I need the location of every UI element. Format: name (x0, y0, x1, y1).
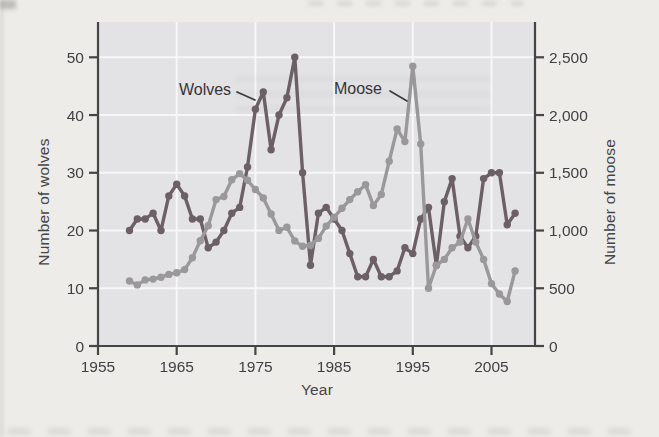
left-axis-tick-label: 10 (67, 280, 85, 297)
x-axis-tick-label: 1985 (317, 358, 351, 375)
wolves-point (267, 146, 274, 153)
wolves-point (220, 227, 227, 234)
wolves-point (244, 163, 251, 170)
wolves-point (346, 250, 353, 257)
moose-point (378, 191, 385, 198)
moose-point (173, 269, 180, 276)
wolves-point (409, 250, 416, 257)
wolves-point (480, 175, 487, 182)
moose-point (393, 125, 400, 132)
moose-point (126, 277, 133, 284)
wolves-point (252, 106, 259, 113)
moose-point (181, 266, 188, 273)
wolves-point (236, 204, 243, 211)
wolves-point (126, 227, 133, 234)
moose-point (149, 275, 156, 282)
wolves-point (464, 244, 471, 251)
moose-point (315, 235, 322, 242)
wolves-point (157, 227, 164, 234)
textbook-figure-page: 0102030405005001,0001,5002,0002,50019551… (0, 0, 659, 437)
wolves-point (181, 192, 188, 199)
moose-point (488, 280, 495, 287)
wolves-point (142, 215, 149, 222)
moose-point (275, 227, 282, 234)
moose-point (252, 186, 259, 193)
moose-point (401, 138, 408, 145)
wolves-point (401, 244, 408, 251)
moose-point (212, 196, 219, 203)
moose-point (504, 298, 511, 305)
x-axis-title: Year (301, 381, 333, 399)
moose-point (228, 176, 235, 183)
x-axis-tick-label: 1975 (238, 358, 272, 375)
wolves-point (315, 210, 322, 217)
moose-point (330, 214, 337, 221)
moose-point (260, 194, 267, 201)
wolves-point (307, 262, 314, 269)
moose-point (157, 274, 164, 281)
moose-point (433, 262, 440, 269)
wolves-point (488, 169, 495, 176)
moose-point (189, 254, 196, 261)
wolf-moose-population-chart: 0102030405005001,0001,5002,0002,50019551… (0, 0, 659, 437)
left-axis-tick-label: 50 (67, 49, 85, 66)
x-axis-tick-label: 1995 (396, 358, 430, 375)
moose-point (283, 224, 290, 231)
moose-point (417, 140, 424, 147)
moose-point (142, 276, 149, 283)
plot-background (98, 22, 535, 346)
moose-point (480, 256, 487, 263)
wolves-point (441, 198, 448, 205)
wolves-point (504, 221, 511, 228)
moose-point (496, 290, 503, 297)
right-axis-title: Number of moose (601, 139, 619, 265)
wolves-point (197, 215, 204, 222)
wolves-point (378, 273, 385, 280)
moose-point (134, 281, 141, 288)
wolves-point (134, 215, 141, 222)
moose-point (425, 285, 432, 292)
x-axis-tick-label: 1965 (159, 358, 193, 375)
wolves-point (149, 210, 156, 217)
wolves-point (205, 244, 212, 251)
moose-point (299, 243, 306, 250)
moose-point (205, 222, 212, 229)
moose-point (165, 271, 172, 278)
moose-point (323, 222, 330, 229)
wolves-point (283, 94, 290, 101)
wolves-point (212, 238, 219, 245)
moose-point (291, 237, 298, 244)
wolves-point (291, 54, 298, 61)
left-axis-tick-label: 30 (67, 164, 85, 181)
left-axis-title: Number of wolves (35, 138, 53, 265)
moose-point (472, 238, 479, 245)
right-axis-tick-label: 2,500 (549, 49, 588, 66)
right-axis-tick-label: 2,000 (549, 107, 588, 124)
right-axis-tick-label: 500 (549, 280, 575, 297)
wolves-point (275, 111, 282, 118)
wolves-point (354, 273, 361, 280)
wolves-point (511, 210, 518, 217)
moose-point (244, 177, 251, 184)
moose-series-label: Moose (334, 80, 382, 98)
moose-point (511, 267, 518, 274)
wolves-point (393, 267, 400, 274)
wolves-point (338, 227, 345, 234)
moose-point (362, 181, 369, 188)
moose-point (456, 238, 463, 245)
wolves-point (299, 169, 306, 176)
moose-point (307, 242, 314, 249)
moose-point (338, 205, 345, 212)
moose-point (346, 196, 353, 203)
moose-point (197, 237, 204, 244)
wolves-point (386, 273, 393, 280)
wolves-point (189, 215, 196, 222)
wolves-series-label: Wolves (179, 81, 231, 99)
right-axis-tick-label: 1,500 (549, 164, 588, 181)
wolves-point (323, 204, 330, 211)
wolves-point (370, 256, 377, 263)
wolves-point (260, 88, 267, 95)
moose-point (409, 63, 416, 70)
wolves-point (228, 210, 235, 217)
wolves-point (165, 192, 172, 199)
